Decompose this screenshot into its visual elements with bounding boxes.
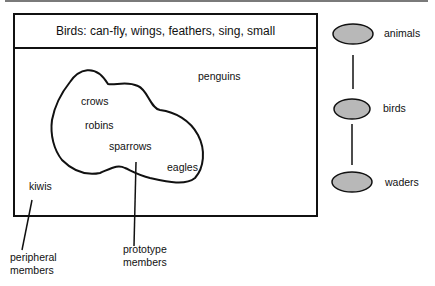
node-waders-label: waders bbox=[385, 176, 419, 188]
node-waders-icon bbox=[332, 172, 372, 192]
diagram-lines bbox=[0, 0, 435, 286]
peripheral-line2: members bbox=[10, 264, 57, 277]
peripheral-line1: peripheral bbox=[10, 251, 57, 264]
node-birds-label: birds bbox=[383, 102, 406, 114]
peripheral-pointer-line bbox=[22, 200, 32, 250]
member-crows: crows bbox=[81, 95, 108, 107]
member-robins: robins bbox=[85, 119, 114, 131]
member-penguins: penguins bbox=[198, 70, 241, 82]
prototype-line1: prototype bbox=[123, 243, 167, 256]
node-animals-label: animals bbox=[384, 27, 420, 39]
prototype-members-label: prototype members bbox=[123, 243, 167, 269]
prototype-pointer-line bbox=[134, 162, 136, 246]
member-eagles: eagles bbox=[167, 161, 198, 173]
prototype-line2: members bbox=[123, 256, 167, 269]
peripheral-members-label: peripheral members bbox=[10, 251, 57, 277]
node-birds-icon bbox=[334, 99, 370, 119]
node-animals-icon bbox=[333, 24, 373, 44]
member-sparrows: sparrows bbox=[109, 140, 152, 152]
member-kiwis: kiwis bbox=[29, 180, 52, 192]
